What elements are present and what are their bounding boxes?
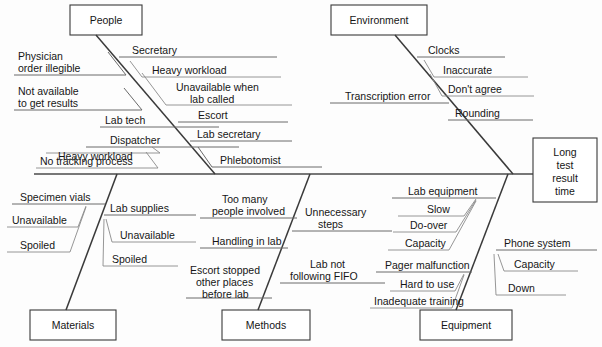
label-capacity-lab-equipment: Capacity — [405, 237, 447, 249]
category-label-materials: Materials — [52, 319, 95, 331]
label-secretary: Secretary — [132, 44, 178, 56]
subtwig-capacity-le-connector — [449, 201, 476, 250]
label-dispatcher: Dispatcher — [110, 134, 161, 146]
effect-label-line4: time — [555, 185, 575, 197]
label-too-many-line1: Too many — [222, 193, 268, 205]
label-escort-stopped-line2: other places — [196, 276, 253, 288]
label-rounding: Rounding — [455, 107, 500, 119]
label-lab-not-fifo-line2: following FIFO — [290, 270, 358, 282]
label-lab-tech: Lab tech — [105, 114, 145, 126]
subtwig-hw-sec-connector — [130, 61, 142, 77]
category-label-people: People — [90, 14, 123, 26]
label-down-phone: Down — [508, 282, 535, 294]
label-phlebotomist: Phlebotomist — [220, 154, 281, 166]
category-label-methods: Methods — [246, 319, 286, 331]
label-slow: Slow — [427, 203, 450, 215]
category-label-environment: Environment — [350, 14, 409, 26]
twig-physician-connector — [108, 52, 126, 75]
label-clocks: Clocks — [428, 44, 460, 56]
label-no-tracking-process: No tracking process — [40, 155, 133, 167]
subtwig-slow-connector — [464, 199, 476, 216]
label-spoiled-specimen: Spoiled — [20, 239, 55, 251]
subtwig-unavail-lab-connector — [142, 73, 166, 105]
label-phone-system: Phone system — [504, 237, 571, 249]
subtwig-down-connector — [494, 254, 496, 295]
subtwig-spoiled-sv-connector — [70, 207, 86, 252]
label-escort-stopped-line1: Escort stopped — [190, 264, 260, 276]
label-lab-supplies: Lab supplies — [110, 202, 169, 214]
label-transcription-error: Transcription error — [345, 90, 431, 102]
effect-label-line2: test — [557, 159, 574, 171]
label-capacity-phone: Capacity — [514, 258, 556, 270]
effect-label-line1: Long — [553, 146, 577, 158]
label-escort: Escort — [198, 109, 228, 121]
label-unnecessary-line1: Unnecessary — [305, 206, 367, 218]
fishbone-canvas: Long test result time People Physician o… — [0, 0, 602, 347]
twig-not-available-connector — [124, 88, 142, 110]
subtwig-hw-disp-connector — [152, 147, 160, 153]
label-spoiled-lab-supplies: Spoiled — [112, 253, 147, 265]
subtwig-unavail-ls-connector — [106, 219, 112, 242]
label-escort-stopped-line3: before lab — [202, 288, 249, 300]
fishbone-diagram: Long test result time People Physician o… — [0, 0, 602, 347]
label-heavy-workload-secretary: Heavy workload — [152, 64, 227, 76]
category-label-equipment: Equipment — [441, 319, 491, 331]
label-lab-secretary: Lab secretary — [197, 128, 261, 140]
label-unavailable-lab-supplies: Unavailable — [120, 229, 175, 241]
label-notavail-line1: Not available — [18, 85, 79, 97]
label-inaccurate: Inaccurate — [443, 64, 492, 76]
label-too-many-line2: people involved — [212, 205, 285, 217]
label-unavail-lab-line2: lab called — [190, 93, 235, 105]
label-unavail-lab-line1: Unavailable when — [176, 81, 259, 93]
label-pager-malfunction: Pager malfunction — [385, 259, 470, 271]
label-lab-not-fifo-line1: Lab not — [310, 258, 345, 270]
label-notavail-line2: to get results — [18, 97, 78, 109]
effect-label-line3: result — [552, 172, 578, 184]
label-unavailable-specimen: Unavailable — [12, 214, 67, 226]
label-lab-equipment: Lab equipment — [408, 185, 478, 197]
label-handling-in-lab: Handling in lab — [212, 235, 282, 247]
subtwig-capacity-ps-connector — [498, 254, 504, 271]
label-inadequate-training: Inadequate training — [374, 295, 464, 307]
subtwig-spoiled-ls-connector — [103, 219, 104, 266]
label-unnecessary-line2: steps — [318, 218, 343, 230]
label-specimen-vials: Specimen vials — [20, 191, 91, 203]
label-hard-to-use: Hard to use — [400, 278, 454, 290]
label-dont-agree: Don't agree — [448, 83, 502, 95]
label-physician-line2: order illegible — [18, 62, 81, 74]
subtwig-notrack-connector — [146, 152, 158, 168]
label-physician-line1: Physician — [18, 50, 63, 62]
label-do-over: Do-over — [410, 219, 448, 231]
